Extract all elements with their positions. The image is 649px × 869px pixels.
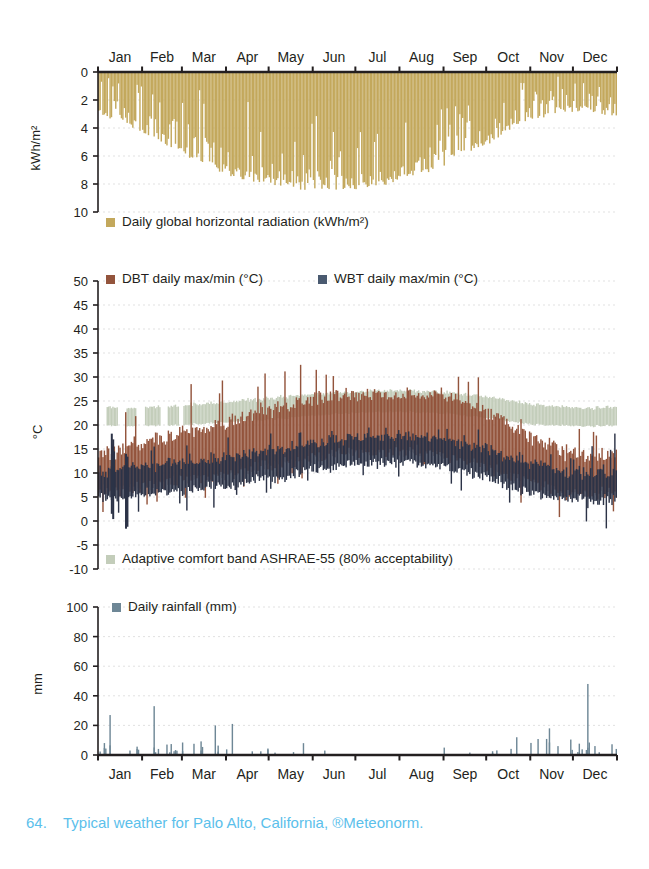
wbt-range-bar bbox=[283, 454, 284, 477]
wbt-range-bar bbox=[335, 435, 336, 470]
radiation-bar bbox=[190, 72, 191, 157]
comfort-band-slab bbox=[563, 407, 564, 426]
radiation-bar bbox=[318, 72, 319, 177]
wbt-range-bar bbox=[583, 467, 584, 498]
wbt-range-bar bbox=[298, 433, 299, 477]
wbt-range-bar bbox=[357, 433, 358, 464]
wbt-range-bar bbox=[279, 449, 280, 480]
month-label: Mar bbox=[192, 49, 216, 65]
wbt-range-bar bbox=[502, 461, 503, 488]
legend-swatch bbox=[318, 275, 327, 284]
radiation-bar bbox=[206, 72, 207, 142]
wbt-range-bar bbox=[485, 443, 486, 475]
radiation-bar bbox=[353, 72, 354, 185]
comfort-band-slab bbox=[111, 408, 112, 426]
comfort-band-slab bbox=[552, 405, 553, 425]
temperature-y-tick-label: 30 bbox=[74, 370, 88, 385]
comfort-band-slab bbox=[202, 404, 203, 424]
wbt-range-bar bbox=[185, 464, 186, 488]
radiation-bar bbox=[253, 72, 254, 182]
wbt-range-bar bbox=[594, 476, 595, 501]
temperature-y-tick-label: 0 bbox=[81, 514, 88, 529]
comfort-band-slab bbox=[486, 397, 487, 418]
wbt-range-bar bbox=[601, 470, 602, 498]
comfort-band-slab bbox=[172, 407, 173, 426]
radiation-bar bbox=[442, 72, 443, 152]
radiation-bar bbox=[249, 72, 250, 177]
comfort-band-slab bbox=[516, 401, 517, 422]
radiation-bar bbox=[179, 72, 180, 148]
wbt-range-bar bbox=[556, 468, 557, 497]
wbt-range-bar bbox=[203, 459, 204, 491]
wbt-range-bar bbox=[169, 458, 170, 493]
wbt-range-bar bbox=[343, 446, 344, 466]
radiation-bar bbox=[584, 72, 585, 106]
comfort-band-slab bbox=[532, 406, 533, 426]
wbt-range-bar bbox=[503, 457, 504, 483]
comfort-band-slab bbox=[108, 407, 109, 426]
wbt-range-bar bbox=[603, 464, 604, 505]
wbt-range-bar bbox=[355, 437, 356, 460]
radiation-bar bbox=[139, 72, 140, 131]
wbt-range-bar bbox=[168, 458, 169, 495]
radiation-bar bbox=[128, 72, 129, 113]
comfort-band-slab bbox=[573, 408, 574, 426]
wbt-range-bar bbox=[134, 465, 135, 491]
radiation-bar bbox=[493, 72, 494, 139]
comfort-band-slab bbox=[576, 407, 577, 426]
comfort-band-slab bbox=[239, 401, 240, 421]
dbt-range-bar bbox=[264, 373, 265, 460]
wbt-range-bar bbox=[215, 458, 216, 489]
wbt-range-bar bbox=[108, 468, 109, 496]
radiation-bar bbox=[462, 72, 463, 118]
wbt-range-bar bbox=[171, 466, 172, 492]
radiation-bar bbox=[458, 72, 459, 150]
wbt-range-bar bbox=[158, 464, 159, 493]
radiation-bar bbox=[151, 72, 152, 119]
comfort-band-slab bbox=[220, 402, 221, 422]
radiation-bar bbox=[324, 72, 325, 185]
wbt-range-bar bbox=[445, 441, 446, 466]
rainfall-y-tick-label: 20 bbox=[74, 718, 88, 733]
comfort-band-slab bbox=[153, 406, 154, 425]
comfort-band-slab bbox=[611, 409, 612, 427]
comfort-band-slab bbox=[586, 408, 587, 426]
radiation-bar bbox=[516, 72, 517, 124]
radiation-bar bbox=[532, 72, 533, 119]
radiation-bar bbox=[192, 72, 193, 158]
wbt-range-bar bbox=[156, 463, 157, 489]
wbt-range-bar bbox=[500, 451, 501, 482]
comfort-band-slab bbox=[594, 409, 595, 427]
wbt-range-bar bbox=[244, 453, 245, 478]
comfort-band-slab bbox=[107, 407, 108, 426]
radiation-y-tick-label: 4 bbox=[81, 121, 88, 136]
comfort-band-slab bbox=[489, 397, 490, 418]
radiation-bar bbox=[235, 72, 236, 169]
wbt-range-bar bbox=[188, 464, 189, 487]
comfort-band-slab bbox=[502, 398, 503, 419]
radiation-bar bbox=[368, 72, 369, 186]
radiation-bar bbox=[222, 72, 223, 172]
radiation-bar bbox=[186, 72, 187, 147]
wbt-range-bar bbox=[237, 454, 238, 488]
wbt-range-bar bbox=[543, 463, 544, 494]
radiation-bar bbox=[212, 72, 213, 162]
dbt-range-bar bbox=[219, 393, 220, 475]
radiation-bar bbox=[308, 72, 309, 169]
radiation-bar bbox=[608, 72, 609, 104]
rainfall-y-tick-label: 60 bbox=[74, 659, 88, 674]
comfort-band-slab bbox=[583, 409, 584, 427]
radiation-bar bbox=[262, 72, 263, 167]
radiation-bar bbox=[270, 72, 271, 183]
radiation-bar bbox=[391, 72, 392, 179]
radiation-bar bbox=[536, 72, 537, 94]
wbt-range-bar bbox=[371, 437, 372, 465]
wbt-range-bar bbox=[334, 443, 335, 465]
radiation-bar bbox=[199, 72, 200, 90]
legend-swatch bbox=[106, 555, 115, 564]
comfort-band-slab bbox=[175, 405, 176, 425]
comfort-band-slab bbox=[109, 406, 110, 425]
radiation-bar bbox=[375, 72, 376, 185]
wbt-range-bar bbox=[505, 459, 506, 481]
month-label: Aug bbox=[409, 766, 434, 782]
